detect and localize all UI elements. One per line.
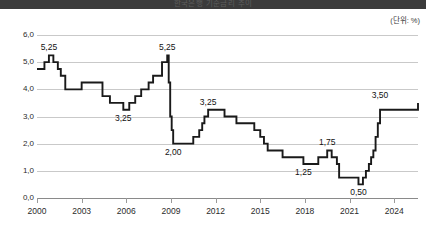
x-axis-tick-label: 2024 <box>374 206 414 216</box>
x-axis-tick-label: 2021 <box>330 206 370 216</box>
x-axis-tick-label: 2000 <box>17 206 57 216</box>
x-axis-tick-label: 2015 <box>240 206 280 216</box>
data-label: 3,25 <box>106 114 140 123</box>
data-label: 3,50 <box>363 91 397 100</box>
series-step-line <box>37 35 418 199</box>
x-axis-tick-label: 2009 <box>151 206 191 216</box>
x-axis-tick-label: 2003 <box>62 206 102 216</box>
data-label: 5,25 <box>150 43 184 52</box>
y-axis-tick-label: 1,0 <box>10 167 34 175</box>
data-label: 1,75 <box>310 138 344 147</box>
y-axis-tick-label: 6,0 <box>10 31 34 39</box>
data-label: 1,25 <box>286 168 320 177</box>
x-axis-tick-label: 2018 <box>285 206 325 216</box>
x-axis-tick-label: 2012 <box>196 206 236 216</box>
y-axis-tick-label: 4,0 <box>10 85 34 93</box>
data-label: 5,25 <box>32 43 66 52</box>
data-label: 2,00 <box>156 148 190 157</box>
y-axis-tick-label: 3,0 <box>10 113 34 121</box>
data-label: 0,50 <box>341 188 375 197</box>
x-axis-tick-label: 2006 <box>106 206 146 216</box>
y-axis-tick-label: 2,0 <box>10 140 34 148</box>
banner-title: 한국은행 기준금리 추이 <box>0 0 426 9</box>
unit-note: (단위: %) <box>390 14 420 25</box>
data-label: 3,25 <box>191 98 225 107</box>
chart-screenshot: 한국은행 기준금리 추이 (단위: %) 0,01,02,03,04,05,06… <box>0 0 426 232</box>
y-axis-tick-label: 5,0 <box>10 58 34 66</box>
y-axis-tick-label: 0,0 <box>10 194 34 202</box>
title-banner: 한국은행 기준금리 추이 <box>0 0 426 9</box>
